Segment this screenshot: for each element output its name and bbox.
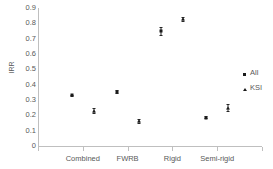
data-point-ksi-fwrb [134, 117, 144, 125]
chart-legend: AllKSI [243, 68, 273, 98]
error-bar-cap-lower [182, 21, 185, 22]
triangle-marker [181, 17, 185, 20]
y-axis-tick-label: 0 [14, 142, 36, 150]
y-axis-tick-label: 0.5 [14, 65, 36, 73]
square-marker [115, 90, 118, 93]
x-axis-tick [262, 147, 263, 151]
x-axis-category-label: Semi-rigid [177, 154, 257, 163]
legend-item-ksi[interactable]: KSI [243, 83, 273, 98]
data-point-ksi-semi-rigid [223, 102, 233, 114]
triangle-marker [92, 109, 96, 112]
error-bar-cap-upper [160, 27, 163, 28]
triangle-marker [243, 88, 247, 91]
y-axis-tick-label: 0.4 [14, 81, 36, 89]
data-point-ksi-combined [89, 106, 99, 115]
y-axis-tick-label: 0.9 [14, 4, 36, 12]
x-axis-line [38, 146, 262, 147]
triangle-marker [226, 106, 230, 109]
error-bar-cap-lower [227, 111, 230, 112]
data-point-all-rigid [156, 25, 166, 37]
x-axis-tick [217, 147, 218, 151]
data-point-all-fwrb [112, 88, 122, 95]
legend-item-label: All [250, 68, 258, 78]
triangle-marker [137, 120, 141, 123]
x-axis-tick [38, 147, 39, 151]
y-axis-tick-label: 0.2 [14, 111, 36, 119]
data-point-ksi-rigid [178, 15, 188, 23]
error-bar-cap-lower [92, 113, 95, 114]
y-axis-tick-labels: 0.90.80.70.60.50.40.30.20.10 [12, 0, 36, 169]
legend-item-all[interactable]: All [243, 68, 273, 83]
x-axis-tick [128, 147, 129, 151]
y-axis-tick-label: 0.3 [14, 96, 36, 104]
square-marker [160, 29, 163, 32]
legend-item-label: KSI [250, 83, 262, 93]
x-axis-tick [83, 147, 84, 151]
square-marker [243, 73, 246, 76]
x-axis-tick [172, 147, 173, 151]
square-marker [70, 94, 73, 97]
y-axis-tick-label: 0.8 [14, 19, 36, 27]
y-axis-tick-label: 0.1 [14, 127, 36, 135]
plot-area [38, 8, 262, 146]
y-axis-tick-label: 0.6 [14, 50, 36, 58]
y-axis-tick-label: 0.7 [14, 35, 36, 43]
data-point-all-semi-rigid [201, 114, 211, 120]
error-bar-cap-upper [227, 104, 230, 105]
error-bar-cap-lower [160, 35, 163, 36]
error-bar-cap-lower [115, 93, 118, 94]
error-bar-cap-lower [137, 123, 140, 124]
irr-scatter-chart: IRR 0.90.80.70.60.50.40.30.20.10 AllKSI … [0, 0, 273, 169]
square-marker [205, 116, 208, 119]
data-point-all-combined [67, 93, 77, 99]
